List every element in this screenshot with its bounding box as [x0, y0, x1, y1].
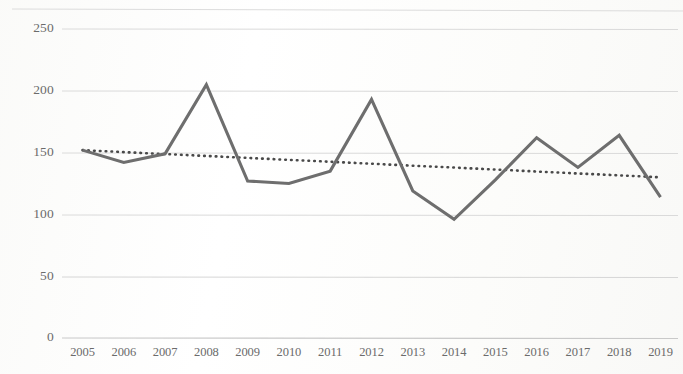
- xtick-label-2005: 2005: [70, 345, 95, 360]
- ytick-label-50: 50: [8, 268, 54, 284]
- xtick-label-2006: 2006: [111, 345, 136, 360]
- ytick-label-200: 200: [8, 82, 54, 98]
- xtick-label-2014: 2014: [442, 345, 467, 360]
- ytick-label-150: 150: [8, 144, 54, 160]
- gridline-100: [62, 215, 678, 216]
- xtick-label-2019: 2019: [648, 345, 673, 360]
- gridline-50: [62, 277, 678, 278]
- xtick-label-2009: 2009: [235, 345, 260, 360]
- xtick-label-2011: 2011: [318, 345, 342, 360]
- xtick-label-2017: 2017: [566, 345, 591, 360]
- ytick-label-0: 0: [8, 329, 54, 345]
- xtick-label-2008: 2008: [194, 345, 219, 360]
- gridline-0: [62, 338, 678, 339]
- ytick-label-100: 100: [8, 206, 54, 222]
- frame-top-edge: [12, 9, 683, 11]
- line-chart: 250 200 150 100 50 0 2005200620072008200…: [0, 0, 683, 374]
- gridline-250: [62, 29, 678, 30]
- xtick-label-2010: 2010: [277, 345, 302, 360]
- gridlines: [62, 29, 678, 339]
- data-series-line: [83, 85, 661, 220]
- xtick-label-2016: 2016: [524, 345, 549, 360]
- gridline-150: [62, 153, 678, 154]
- xtick-label-2012: 2012: [359, 345, 384, 360]
- xtick-label-2015: 2015: [483, 345, 508, 360]
- xtick-label-2013: 2013: [400, 345, 425, 360]
- xtick-label-2007: 2007: [153, 345, 178, 360]
- ytick-label-250: 250: [8, 20, 54, 36]
- gridline-200: [62, 91, 678, 92]
- plot-area: [0, 0, 683, 374]
- xtick-label-2018: 2018: [607, 345, 632, 360]
